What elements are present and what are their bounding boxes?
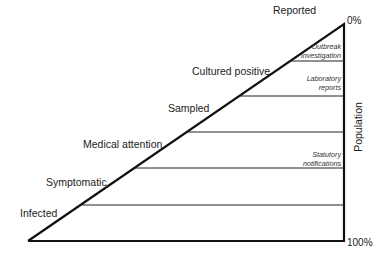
level-label-medical-attention: Medical attention bbox=[83, 138, 162, 150]
source-label-outbreak-investigation: Outbreak investigation bbox=[301, 42, 341, 60]
level-label-sampled: Sampled bbox=[168, 102, 209, 114]
population-axis-label: Population bbox=[352, 99, 364, 155]
axis-top-percent: 0% bbox=[347, 15, 361, 26]
level-label-infected: Infected bbox=[20, 207, 57, 219]
level-label-reported: Reported bbox=[273, 4, 316, 16]
pyramid-diagram bbox=[0, 0, 391, 261]
level-label-symptomatic: Symptomatic bbox=[46, 176, 107, 188]
source-label-statutory-notifications: Statutory notifications bbox=[303, 150, 341, 168]
level-label-cultured-positive: Cultured positive bbox=[192, 65, 270, 77]
axis-bottom-percent: 100% bbox=[347, 237, 373, 248]
source-label-laboratory-reports: Laboratory reports bbox=[307, 74, 341, 92]
